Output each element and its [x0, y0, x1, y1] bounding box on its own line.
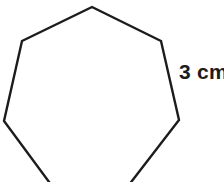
- geometry-figure-canvas: 3 cm: [0, 0, 224, 182]
- side-length-label: 3 cm: [179, 61, 224, 82]
- heptagon-drawing: [0, 0, 224, 182]
- heptagon-shape: [4, 7, 179, 182]
